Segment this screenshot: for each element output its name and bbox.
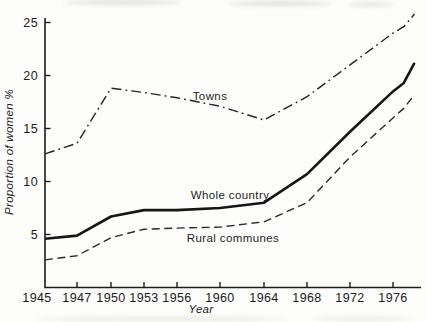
y-tick-label: 10 (23, 175, 38, 189)
x-tick-label: 1945 (22, 291, 51, 305)
y-tick-label: 15 (23, 122, 38, 136)
line-chart: 5101520251945194719501953195619601964196… (0, 0, 427, 322)
y-tick-label: 5 (31, 228, 38, 242)
x-tick-label: 1953 (129, 291, 158, 305)
x-tick-label: 1956 (162, 291, 191, 305)
scan-smudge (38, 317, 288, 321)
chart-figure: 5101520251945194719501953195619601964196… (0, 0, 427, 322)
y-tick-label: 25 (23, 16, 38, 30)
x-axis-title: Year (189, 303, 215, 315)
series-line-towns (45, 14, 415, 154)
plot-area: 5101520251945194719501953195619601964196… (22, 14, 421, 305)
series-line-whole-country (45, 63, 415, 239)
series-label-towns: Towns (193, 90, 228, 102)
y-axis-title: Proportion of women % (3, 89, 15, 215)
scan-smudge (64, 0, 182, 5)
x-tick-label: 1947 (62, 291, 91, 305)
x-tick-label: 1976 (378, 291, 407, 305)
scan-smudge (312, 317, 412, 321)
x-tick-label: 1972 (335, 291, 364, 305)
series-label-whole-country: Whole country (191, 189, 270, 201)
x-tick-label: 1964 (249, 291, 278, 305)
y-tick-label: 20 (23, 69, 38, 83)
scan-smudge (228, 1, 332, 6)
scan-smudge (348, 2, 394, 7)
x-tick-label: 1968 (292, 291, 321, 305)
series-label-rural-communes: Rural communes (187, 232, 280, 244)
x-tick-label: 1950 (96, 291, 125, 305)
axes (45, 18, 421, 288)
